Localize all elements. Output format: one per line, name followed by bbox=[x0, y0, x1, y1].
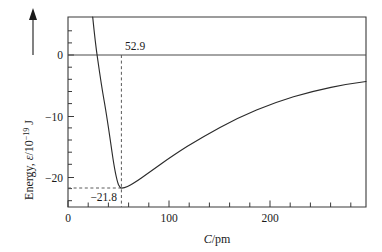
x-ticklabel-200: 200 bbox=[261, 212, 279, 224]
x-ticklabel-100: 100 bbox=[160, 212, 178, 224]
y-ticklabel-minus20: −20 bbox=[45, 172, 63, 184]
x-minor-ticks bbox=[88, 203, 351, 208]
x-axis-title: C/pm bbox=[204, 232, 231, 246]
y-axis-title-exponent: −19 bbox=[22, 128, 31, 141]
x-ticklabel-0: 0 bbox=[65, 212, 71, 224]
potential-energy-plot: 0 −10 −20 0 100 200 bbox=[0, 0, 382, 252]
y-axis-title-group: Energy, ε/10−19 J bbox=[22, 8, 37, 200]
x-axis-title-rest: /pm bbox=[212, 232, 231, 246]
y-minor-ticks bbox=[68, 31, 72, 201]
y-axis-title: Energy, ε/10−19 J bbox=[22, 120, 36, 200]
annotation-x-minimum: 52.9 bbox=[125, 40, 145, 52]
y-axis-title-unit: J bbox=[22, 120, 36, 128]
frame-rect bbox=[68, 17, 366, 207]
y-axis-title-word: Energy, bbox=[22, 160, 36, 200]
chart-figure: 0 −10 −20 0 100 200 bbox=[0, 0, 382, 252]
annotation-y-minimum: −21.8 bbox=[90, 191, 117, 203]
y-major-ticks bbox=[68, 55, 74, 178]
y-axis-title-divider: /10 bbox=[22, 140, 36, 155]
up-arrow-icon bbox=[29, 8, 37, 20]
y-ticklabel-0: 0 bbox=[57, 49, 63, 61]
plot-frame bbox=[68, 17, 366, 207]
y-ticklabel-minus10: −10 bbox=[45, 111, 63, 123]
